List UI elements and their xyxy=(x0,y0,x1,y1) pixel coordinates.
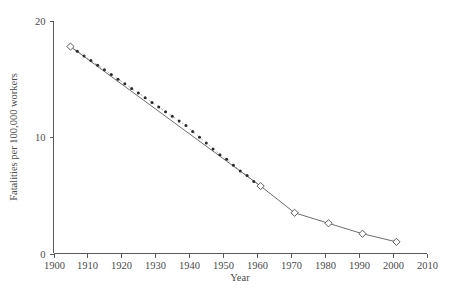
y-axis-ticks: 01020 xyxy=(35,16,54,260)
series-dot-marker xyxy=(218,153,221,156)
x-tick-label: 1960 xyxy=(247,260,268,271)
x-tick-label: 1970 xyxy=(281,260,302,271)
series-dot-marker xyxy=(130,87,133,90)
y-axis: 01020 xyxy=(35,16,54,260)
series-dot-marker xyxy=(246,174,249,177)
x-tick-label: 1920 xyxy=(111,260,132,271)
series-dot-marker xyxy=(110,73,113,76)
y-tick-label: 10 xyxy=(35,132,46,143)
series-dot-marker xyxy=(103,68,106,71)
x-tick-label: 1930 xyxy=(145,260,166,271)
series-diamond-marker xyxy=(393,238,400,245)
series-dot-marker xyxy=(225,158,228,161)
chart-container: 01020 1900191019201930194019501960197019… xyxy=(0,0,451,302)
x-tick-label: 1910 xyxy=(77,260,98,271)
series-dot-marker xyxy=(144,96,147,99)
x-tick-label: 2010 xyxy=(417,260,438,271)
series-dot-marker xyxy=(96,64,99,67)
series-dot-marker xyxy=(164,110,167,113)
series-dot-marker xyxy=(178,119,181,122)
series-dot-marker xyxy=(184,124,187,127)
series-dot-marker xyxy=(171,115,174,118)
series-dot-marker xyxy=(150,101,153,104)
series-dot-marker xyxy=(89,59,92,62)
x-tick-label: 1900 xyxy=(44,260,65,271)
reported-series-line xyxy=(70,47,396,242)
series-dot-marker xyxy=(157,106,160,109)
series-dot-marker xyxy=(123,82,126,85)
x-axis-title: Year xyxy=(230,272,250,283)
x-tick-label: 1950 xyxy=(213,260,234,271)
y-axis-title: Fatalities per 100,000 workers xyxy=(8,73,19,201)
series-dot-marker xyxy=(252,180,255,183)
series-dot-marker xyxy=(198,136,201,139)
series-diamond-marker xyxy=(325,220,332,227)
x-tick-label: 1980 xyxy=(315,260,336,271)
x-tick-label: 2000 xyxy=(383,260,404,271)
plot-area xyxy=(67,43,400,246)
series-diamond-marker xyxy=(359,230,366,237)
series-dot-marker xyxy=(232,164,235,167)
reported-series-markers xyxy=(67,43,400,246)
series-dot-marker xyxy=(191,130,194,133)
y-tick-label: 20 xyxy=(35,16,46,27)
series-dot-marker xyxy=(205,142,208,145)
x-axis-ticks: 1900191019201930194019501960197019801990… xyxy=(44,254,438,271)
x-tick-label: 1940 xyxy=(179,260,200,271)
x-axis: 1900191019201930194019501960197019801990… xyxy=(44,254,438,271)
series-dot-marker xyxy=(83,54,86,57)
x-tick-label: 1990 xyxy=(349,260,370,271)
series-dot-marker xyxy=(137,92,140,95)
series-dot-marker xyxy=(76,50,79,53)
series-diamond-marker xyxy=(67,43,74,50)
fatality-rate-line-chart: 01020 1900191019201930194019501960197019… xyxy=(0,0,451,302)
series-dot-marker xyxy=(117,78,120,81)
series-dot-marker xyxy=(212,147,215,150)
series-dot-marker xyxy=(239,169,242,172)
